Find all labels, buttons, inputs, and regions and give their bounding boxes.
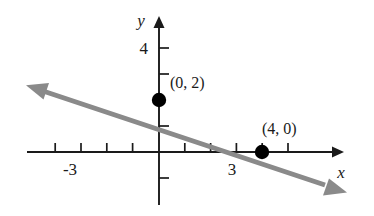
x-tick-label--3: -3 <box>63 160 77 179</box>
x-tick-label-3: 3 <box>228 160 237 179</box>
line-arrowhead-start-icon <box>26 83 49 100</box>
x-axis-arrowhead-icon <box>332 147 344 158</box>
point-label-4-0: (4, 0) <box>262 120 297 138</box>
coordinate-plane-svg: y x 4 -3 3 (0, 2) (4, 0) <box>0 0 374 216</box>
point-0-2-marker <box>152 93 166 107</box>
y-axis-label: y <box>135 11 145 30</box>
x-axis-ticks <box>55 143 288 152</box>
y-tick-label-4: 4 <box>140 39 149 58</box>
y-axis-arrowhead-icon <box>154 16 165 28</box>
graph-figure: y x 4 -3 3 (0, 2) (4, 0) <box>0 0 374 216</box>
plotted-line <box>37 89 325 185</box>
y-axis-ticks <box>159 48 169 178</box>
point-4-0-marker <box>255 145 269 159</box>
x-axis-label: x <box>336 163 345 182</box>
point-label-0-2: (0, 2) <box>170 74 205 92</box>
